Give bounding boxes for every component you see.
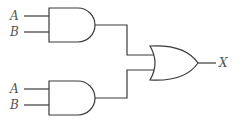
label-output-x: X [218, 56, 228, 70]
or-gate [150, 46, 198, 80]
wire-and-bottom-to-or [95, 70, 154, 98]
logic-circuit-diagram: A B A B X [0, 0, 245, 122]
wire-and-top-to-or [95, 25, 154, 55]
label-top-b: B [9, 25, 19, 39]
label-top-a: A [9, 9, 19, 23]
label-bottom-a: A [9, 82, 19, 96]
and-gate-bottom [49, 81, 95, 115]
label-bottom-b: B [9, 98, 19, 112]
and-gate-top [49, 8, 95, 42]
